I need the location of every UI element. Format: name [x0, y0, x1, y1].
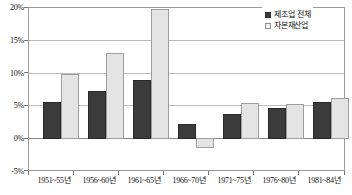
bar-series1 — [133, 80, 151, 139]
bar-series1 — [223, 114, 241, 139]
y-tick-label: -5% — [0, 167, 24, 176]
x-tick-label: 1956~60년 — [79, 174, 119, 185]
bar-series1 — [268, 108, 286, 139]
y-tick-label: 0% — [0, 134, 24, 143]
bar-series2 — [331, 98, 349, 139]
x-tick-label: 1981~84년 — [304, 174, 344, 185]
y-tick-label: 20% — [0, 3, 24, 12]
legend-label: 제조업 전체 — [274, 9, 310, 20]
bar-series1 — [43, 102, 61, 139]
bar-series2 — [61, 74, 79, 139]
legend-label: 자본재산업 — [274, 20, 308, 31]
x-axis: 1951~55년 1956~60년 1961~65년 1966~70년 1971… — [28, 174, 345, 194]
bar-series2 — [241, 103, 259, 139]
bar-chart: 20% 15% 10% 5% 0% -5% — [0, 0, 352, 195]
legend-swatch-icon — [265, 23, 271, 29]
bar-series1 — [178, 124, 196, 139]
x-tick-label: 1966~70년 — [169, 174, 209, 185]
bar-series2 — [106, 53, 124, 139]
legend-item-series1: 제조업 전체 — [265, 9, 310, 20]
bar-series2 — [196, 138, 214, 148]
y-tick-label: 15% — [0, 36, 24, 45]
bar-series1 — [313, 102, 331, 139]
x-tick-label: 1971~75년 — [214, 174, 254, 185]
y-tick-label: 5% — [0, 101, 24, 110]
x-tick-label: 1951~55년 — [34, 174, 74, 185]
bar-series2 — [151, 9, 169, 139]
y-axis: 20% 15% 10% 5% 0% -5% — [0, 0, 26, 195]
bar-series2 — [286, 104, 304, 139]
legend-swatch-icon — [265, 12, 271, 18]
x-tick-label: 1961~65년 — [124, 174, 164, 185]
bar-series1 — [88, 91, 106, 139]
x-tick-label: 1976~80년 — [259, 174, 299, 185]
legend-item-series2: 자본재산업 — [265, 20, 310, 31]
legend: 제조업 전체 자본재산업 — [262, 7, 313, 33]
y-tick-label: 10% — [0, 69, 24, 78]
